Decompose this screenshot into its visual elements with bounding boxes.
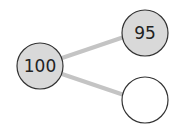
connector-top — [62, 37, 124, 58]
whole-node: 100 — [17, 43, 63, 89]
number-bond-diagram: 100 95 — [0, 0, 179, 129]
whole-value: 100 — [24, 56, 56, 76]
part-top-value: 95 — [134, 23, 156, 43]
connector-bottom — [62, 74, 124, 95]
part-node-top: 95 — [122, 10, 168, 56]
part-node-bottom[interactable] — [122, 77, 168, 123]
